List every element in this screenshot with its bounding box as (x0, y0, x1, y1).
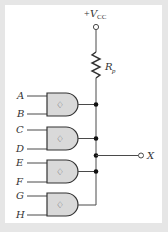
circuit-diagram: + V CC R p ♢ A B ♢ C D ♢ E (0, 0, 168, 232)
gate-1: ♢ A B (16, 90, 96, 119)
open-collector-symbol-icon: ♢ (56, 134, 64, 144)
input-g-label: G (16, 190, 24, 201)
junction-dot-icon (94, 136, 99, 141)
output-terminal-icon (139, 153, 144, 158)
vcc-subscript: CC (97, 13, 107, 21)
vcc-label: + V CC (84, 8, 107, 21)
open-collector-symbol-icon: ♢ (56, 100, 64, 110)
input-e-label: E (15, 157, 24, 168)
open-collector-symbol-icon: ♢ (56, 167, 64, 177)
input-f-label: F (15, 176, 24, 187)
output-x-label: X (146, 150, 155, 161)
input-h-label: H (15, 209, 25, 220)
gate-3: ♢ E F (15, 157, 96, 187)
junction-dot-icon (94, 102, 99, 107)
gate-4: ♢ G H (15, 190, 96, 220)
junction-dot-icon (94, 169, 99, 174)
resistor-icon (92, 52, 100, 78)
input-c-label: C (16, 124, 24, 135)
rp-label: R p (104, 61, 116, 75)
rp-subscript: p (111, 67, 116, 75)
vcc-terminal-icon (93, 24, 98, 29)
input-a-label: A (16, 90, 24, 101)
gate-2: ♢ C D (15, 124, 96, 154)
input-d-label: D (15, 143, 24, 154)
open-collector-symbol-icon: ♢ (56, 200, 64, 210)
input-b-label: B (16, 108, 24, 119)
